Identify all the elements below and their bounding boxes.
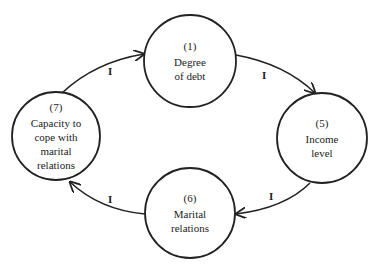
node-label-line: Capacity to [31, 116, 81, 130]
edge-label-6-to-7: I [108, 193, 112, 205]
node-degree-of-debt: (1) Degree of debt [144, 15, 236, 107]
node-label-line: Marital [174, 207, 206, 221]
edge-label-1-to-5: I [262, 69, 266, 81]
node-number: (1) [184, 40, 197, 52]
edge-label-5-to-6: I [269, 190, 273, 202]
node-label-line: marital [40, 144, 71, 158]
node-label-line: Income [306, 132, 339, 146]
node-number: (5) [316, 117, 329, 129]
edge-7-to-1 [62, 54, 144, 93]
node-number: (7) [50, 101, 63, 113]
node-income-level: (5) Income level [277, 93, 367, 183]
node-capacity-to-cope: (7) Capacity to cope with marital relati… [12, 92, 100, 180]
node-marital-relations: (6) Marital relations [145, 168, 235, 258]
edge-1-to-5 [236, 55, 315, 93]
node-label-line: Degree [174, 55, 206, 69]
edge-label-7-to-1: I [108, 65, 112, 77]
node-label-line: cope with [34, 130, 77, 144]
node-number: (6) [184, 192, 197, 204]
node-label-line: relations [37, 158, 75, 172]
node-label-line: level [311, 146, 332, 160]
node-label-line: of debt [175, 69, 206, 83]
node-label-line: relations [171, 221, 209, 235]
